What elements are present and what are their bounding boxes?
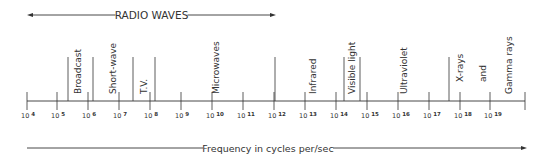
spectrum-diagram: RADIO WAVES BroadcastShort-waveT.V.Micro…: [0, 0, 548, 156]
tick-label: 1014: [330, 111, 348, 121]
arrow-right-icon: [521, 146, 527, 150]
tick-label: 1018: [454, 111, 472, 121]
tick-label: 104: [21, 111, 35, 121]
tick-label: 108: [144, 111, 158, 121]
radio-waves-range: RADIO WAVES: [27, 9, 276, 21]
tick-label: 1016: [392, 111, 410, 121]
tick-label: 1012: [268, 111, 286, 121]
radio-waves-label: RADIO WAVES: [115, 9, 189, 21]
tick-label: 105: [51, 111, 65, 121]
band-label: Broadcast: [73, 48, 83, 94]
band-label: T.V.: [139, 79, 149, 95]
band-labels: BroadcastShort-waveT.V.MicrowavesInfrare…: [73, 36, 514, 95]
tick-label: 1011: [237, 111, 255, 121]
arrow-left-icon: [27, 13, 33, 17]
band-label: Infrared: [308, 59, 318, 95]
band-label: Visible light: [347, 41, 357, 94]
tick-label: 1015: [361, 111, 379, 121]
band-label: and: [478, 65, 488, 82]
band-label: X-rays: [455, 53, 465, 82]
tick-label: 107: [113, 111, 127, 121]
band-label: Gamma rays: [504, 36, 514, 94]
band-label: Short-wave: [108, 42, 118, 94]
tick-label: 1019: [484, 111, 502, 121]
frequency-label: Frequency in cycles per/sec: [202, 143, 333, 154]
frequency-arrow: Frequency in cycles per/sec: [27, 143, 527, 154]
arrow-right-icon: [270, 13, 276, 17]
tick-label: 1010: [206, 111, 224, 121]
tick-label: 109: [175, 111, 189, 121]
tick-label: 1013: [299, 111, 317, 121]
band-dividers: [68, 57, 449, 101]
band-label: Microwaves: [211, 41, 221, 94]
tick-label: 106: [82, 111, 96, 121]
tick-label: 1017: [423, 111, 441, 121]
band-label: Ultraviolet: [399, 47, 409, 94]
